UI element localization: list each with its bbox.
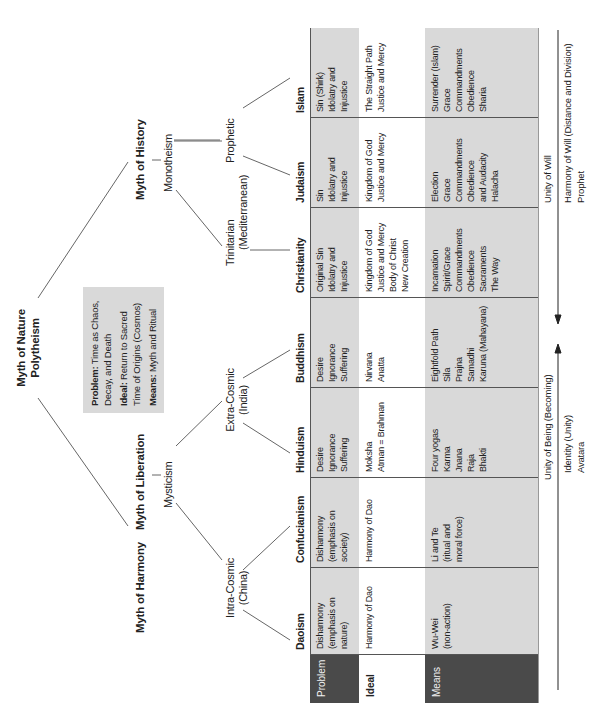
unity-of-will-label: Unity of Will: [542, 155, 554, 203]
identity-unity-label: Identity (Unity): [562, 415, 574, 473]
unity-of-being-label: Unity of Being (Becoming): [542, 375, 554, 480]
prophet-label: Prophet: [575, 171, 587, 203]
religions-diagram: Myth of Nature Polytheism Problem: Time …: [0, 0, 596, 728]
harmony-of-will-label: Harmony of Will (Distance and Division): [562, 43, 574, 203]
avatara-label: Avatara: [575, 442, 587, 473]
axis-arrows: [0, 0, 596, 728]
